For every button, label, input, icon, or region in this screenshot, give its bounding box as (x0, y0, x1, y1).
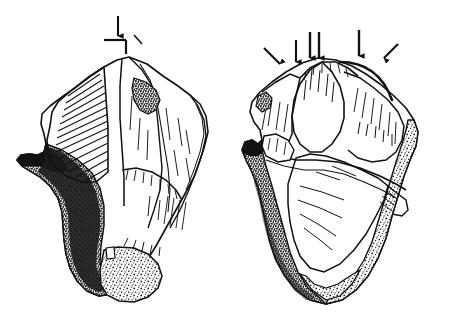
lithic-artifact-illustration (0, 0, 455, 329)
figure-canvas (0, 0, 455, 329)
left-chip-notch (106, 247, 115, 259)
right-dark-margin-left (242, 140, 263, 156)
